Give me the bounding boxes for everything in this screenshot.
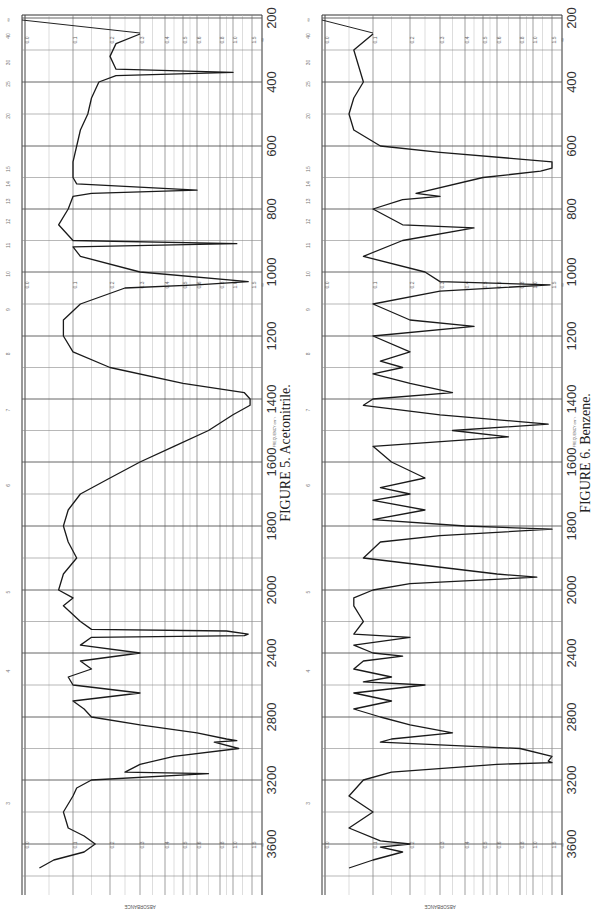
absorbance-tick-label: 0.5 xyxy=(482,36,488,43)
frequency-tick-label: 2400 xyxy=(564,639,579,668)
frequency-axis-title: FREQUENCY cm⁻¹ xyxy=(573,416,577,448)
absorbance-tick-label: 0.8 xyxy=(219,841,225,848)
micron-tick-label: 11 xyxy=(5,243,11,248)
frequency-tick-label: 1400 xyxy=(264,385,279,414)
frequency-tick-label: 800 xyxy=(264,198,279,220)
micron-tick-label: 40 xyxy=(305,33,311,39)
absorbance-tick-label: 0.3 xyxy=(139,841,145,848)
micron-tick-label: ∞ xyxy=(305,18,311,22)
frequency-tick-label: 1600 xyxy=(264,448,279,477)
frequency-tick-label: 1000 xyxy=(564,258,579,287)
frequency-tick-label: 3200 xyxy=(264,766,279,795)
figure-5-caption: FIGURE 5. Acetonitrile. xyxy=(278,353,294,553)
absorbance-tick-label: 0.2 xyxy=(109,841,115,848)
frequency-tick-label: 1200 xyxy=(564,322,579,351)
absorbance-tick-label: 0.3 xyxy=(439,841,445,848)
micron-tick-label: 14 xyxy=(5,181,11,187)
absorbance-tick-label: 0.6 xyxy=(196,36,202,43)
frequency-axis-title: FREQUENCY cm⁻¹ xyxy=(273,416,277,448)
micron-tick-label: 3 xyxy=(305,802,311,805)
absorbance-tick-label: 0.2 xyxy=(109,281,115,288)
micron-tick-label: 15 xyxy=(305,166,311,172)
micron-tick-label: 6 xyxy=(305,484,311,487)
frequency-tick-label: 400 xyxy=(264,71,279,93)
absorbance-tick-label: 0.0 xyxy=(24,281,30,288)
absorbance-tick-label: 0.3 xyxy=(439,281,445,288)
absorbance-tick-label: 1.5 xyxy=(251,281,257,288)
micron-tick-label: 25 xyxy=(5,81,11,87)
frequency-tick-label: 600 xyxy=(564,135,579,157)
micron-tick-label: 25 xyxy=(305,81,311,87)
absorbance-tick-label: 1.5 xyxy=(251,841,257,848)
absorbance-tick-label: 0.0 xyxy=(24,841,30,848)
frequency-tick-label: 3600 xyxy=(564,830,579,859)
absorbance-tick-label: 0.0 xyxy=(324,36,330,43)
micron-tick-label: 40 xyxy=(5,33,11,39)
spectrum-trace xyxy=(39,34,250,868)
micron-tick-label: 9 xyxy=(5,308,11,311)
absorbance-tick-label: 0.0 xyxy=(324,281,330,288)
absorbance-tick-label: 0.4 xyxy=(464,841,470,848)
absorbance-tick-label: 0.1 xyxy=(72,841,78,848)
figure-5-acetonitrile: 0.00.10.20.30.40.50.60.81.01.5∞0.00.10.2… xyxy=(0,0,300,909)
frequency-tick-label: 400 xyxy=(564,71,579,93)
absorbance-tick-label: 0.2 xyxy=(409,841,415,848)
frequency-tick-label: 1600 xyxy=(564,448,579,477)
absorbance-tick-label: 0.4 xyxy=(164,841,170,848)
micron-tick-label: 4 xyxy=(305,669,311,672)
spectrum-trace xyxy=(349,34,552,868)
micron-tick-label: 13 xyxy=(5,198,11,204)
absorbance-tick-label: 1.0 xyxy=(532,36,538,43)
figure-6-caption: FIGURE 6. Benzene. xyxy=(578,353,594,553)
absorbance-tick-label: 0.6 xyxy=(496,36,502,43)
frequency-tick-label: 1800 xyxy=(564,512,579,541)
micron-tick-label: 20 xyxy=(5,113,11,119)
micron-tick-label: 11 xyxy=(305,243,311,248)
micron-tick-label: 8 xyxy=(305,352,311,355)
frequency-tick-label: 3200 xyxy=(564,766,579,795)
absorbance-tick-label: 0.8 xyxy=(219,281,225,288)
micron-tick-label: 4 xyxy=(5,669,11,672)
absorbance-tick-label: ∞ xyxy=(559,38,565,42)
absorbance-tick-label: 0.6 xyxy=(496,841,502,848)
micron-tick-label: 8 xyxy=(5,352,11,355)
absorbance-tick-label: 1.0 xyxy=(232,841,238,848)
pen-start-stroke xyxy=(322,20,373,33)
frequency-tick-label: 1400 xyxy=(564,385,579,414)
absorbance-tick-label: 1.5 xyxy=(551,36,557,43)
absorbance-tick-label: 0.1 xyxy=(72,36,78,43)
absorbance-tick-label: 0.5 xyxy=(182,841,188,848)
micron-tick-label: 5 xyxy=(305,590,311,593)
micron-tick-label: 9 xyxy=(305,308,311,311)
absorbance-tick-label: 0.2 xyxy=(409,36,415,43)
frequency-tick-label: 200 xyxy=(564,7,579,29)
micron-tick-label: 30 xyxy=(5,60,11,66)
frequency-tick-label: 2000 xyxy=(264,576,279,605)
frequency-tick-label: 2800 xyxy=(564,703,579,732)
absorbance-tick-label: 0.4 xyxy=(164,36,170,43)
frequency-tick-label: 800 xyxy=(564,198,579,220)
frequency-tick-label: 2000 xyxy=(564,576,579,605)
absorbance-tick-label: 0.4 xyxy=(164,281,170,288)
pen-start-stroke xyxy=(22,20,140,33)
absorbance-tick-label: 0.5 xyxy=(182,36,188,43)
acetonitrile-spectrum-plot: 0.00.10.20.30.40.50.60.81.01.5∞0.00.10.2… xyxy=(0,0,300,909)
micron-tick-label: 12 xyxy=(305,218,311,224)
micron-tick-label: 14 xyxy=(305,181,311,187)
frequency-tick-label: 1800 xyxy=(264,512,279,541)
absorbance-tick-label: 0.0 xyxy=(324,841,330,848)
absorbance-tick-label: 0.0 xyxy=(24,36,30,43)
absorbance-tick-label: 0.3 xyxy=(439,36,445,43)
absorbance-tick-label: 0.2 xyxy=(109,36,115,43)
micron-tick-label: 7 xyxy=(5,409,11,412)
micron-tick-label: 10 xyxy=(5,271,11,277)
absorbance-tick-label: ∞ xyxy=(259,38,265,42)
frequency-tick-label: 1000 xyxy=(264,258,279,287)
absorbance-tick-label: 0.8 xyxy=(219,36,225,43)
absorbance-tick-label: 0.8 xyxy=(519,36,525,43)
absorbance-axis-title: ABSORBANCE xyxy=(424,904,455,909)
absorbance-tick-label: 0.1 xyxy=(372,36,378,43)
absorbance-tick-label: 0.1 xyxy=(372,281,378,288)
absorbance-tick-label: 1.5 xyxy=(551,281,557,288)
micron-tick-label: 3 xyxy=(5,802,11,805)
